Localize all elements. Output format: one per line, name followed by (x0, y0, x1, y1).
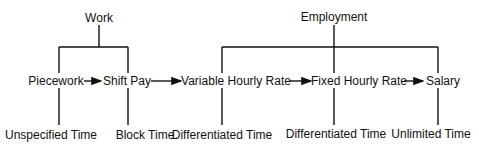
node-piecework: Piecework (28, 75, 83, 87)
group-label-work: Work (85, 12, 113, 24)
time-block: Block Time (116, 129, 175, 141)
node-fixed-hourly-rate: Fixed Hourly Rate (311, 75, 407, 87)
time-differentiated-fixed: Differentiated Time (286, 128, 387, 140)
group-label-employment: Employment (301, 11, 368, 23)
time-unspecified: Unspecified Time (5, 129, 97, 141)
node-shift-pay: Shift Pay (103, 75, 151, 87)
time-unlimited: Unlimited Time (391, 128, 470, 140)
node-variable-hourly-rate: Variable Hourly Rate (181, 75, 291, 87)
node-salary: Salary (426, 75, 460, 87)
time-differentiated-variable: Differentiated Time (172, 129, 273, 141)
